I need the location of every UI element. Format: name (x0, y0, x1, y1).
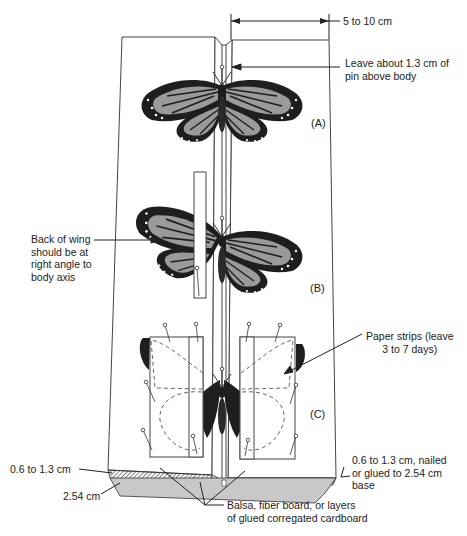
wing-back-line-2: should be at (31, 246, 92, 259)
pin-height-line-2: pin above body (345, 70, 449, 83)
paper-strip-b (194, 172, 206, 298)
right-board-line-1: 0.6 to 1.3 cm, nailed (352, 454, 447, 467)
stage-label-c: (C) (310, 408, 325, 420)
wing-back-line-3: right angle to (31, 258, 92, 271)
right-board-line-2: or glued to 2.54 cm (352, 467, 447, 480)
dimension-label: 5 to 10 cm (343, 15, 392, 28)
width-dimension (231, 14, 340, 40)
wing-back-line-1: Back of wing (31, 233, 92, 246)
paper-strips-line-2: 3 to 7 days) (366, 343, 454, 356)
material-line-2: of glued corregated cardboard (227, 512, 368, 525)
stage-label-a: (A) (311, 117, 326, 129)
stage-label-b: (B) (310, 282, 325, 294)
paper-strips-line-1: Paper strips (leave (366, 330, 454, 343)
pin-height-note: Leave about 1.3 cm of pin above body (345, 57, 449, 82)
wing-back-line-4: body axis (31, 271, 92, 284)
top-board-thickness-label: 0.6 to 1.3 cm (10, 463, 71, 476)
right-board-note: 0.6 to 1.3 cm, nailed or glued to 2.54 c… (352, 454, 447, 492)
base-thickness-label: 2.54 cm (63, 490, 100, 503)
paper-strips-note: Paper strips (leave 3 to 7 days) (366, 330, 454, 355)
wing-back-note: Back of wing should be at right angle to… (31, 233, 92, 283)
right-board-line-3: base (352, 479, 447, 492)
material-note: Balsa, fiber board, or layers of glued c… (227, 499, 368, 524)
material-line-1: Balsa, fiber board, or layers (227, 499, 368, 512)
pin-height-line-1: Leave about 1.3 cm of (345, 57, 449, 70)
